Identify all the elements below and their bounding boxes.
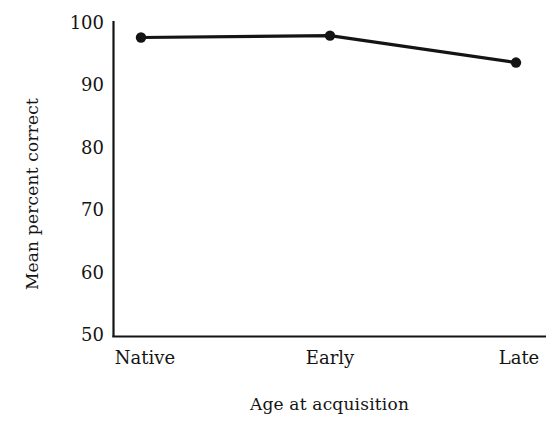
plot-area bbox=[0, 0, 554, 430]
data-point-marker-native bbox=[136, 32, 146, 42]
data-point-marker-late bbox=[511, 57, 521, 67]
chart-container: Mean percent correct 100 90 80 70 60 50 … bbox=[0, 0, 554, 430]
data-point-marker-early bbox=[325, 30, 335, 40]
